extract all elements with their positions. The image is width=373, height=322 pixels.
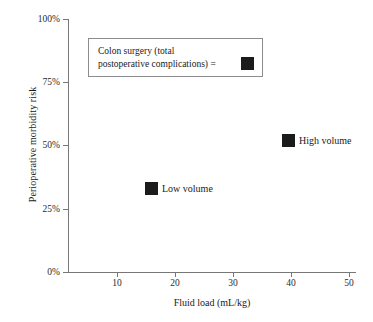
y-tick-label-75: 75% bbox=[43, 77, 60, 87]
x-axis-title: Fluid load (mL/kg) bbox=[68, 297, 356, 308]
y-tick-mark-25 bbox=[63, 209, 69, 210]
chart-container: 100% 75% 50% 25% 0% 10 20 30 40 50 Perio… bbox=[0, 0, 373, 322]
legend-box: Colon surgery (total postoperative compl… bbox=[88, 38, 263, 77]
y-tick-label-100: 100% bbox=[38, 14, 60, 24]
y-tick-label-50: 50% bbox=[43, 140, 60, 150]
data-label-low-volume: Low volume bbox=[162, 183, 213, 194]
y-tick-mark-100 bbox=[63, 19, 69, 20]
x-tick-label-30: 30 bbox=[218, 278, 248, 288]
y-tick-label-25: 25% bbox=[43, 204, 60, 214]
data-point-low-volume[interactable] bbox=[145, 182, 158, 195]
legend-text: Colon surgery (total postoperative compl… bbox=[98, 45, 243, 71]
y-tick-label-0: 0% bbox=[47, 267, 60, 277]
y-tick-mark-0 bbox=[63, 272, 69, 273]
x-tick-mark-10 bbox=[117, 272, 118, 277]
x-tick-label-40: 40 bbox=[276, 278, 306, 288]
legend-text-line2: postoperative complications) = bbox=[98, 59, 216, 69]
y-tick-mark-75 bbox=[63, 82, 69, 83]
legend-marker-square bbox=[241, 57, 254, 70]
data-label-high-volume: High volume bbox=[299, 135, 352, 146]
x-tick-label-10: 10 bbox=[102, 278, 132, 288]
data-point-high-volume[interactable] bbox=[282, 134, 295, 147]
legend-text-line1: Colon surgery (total bbox=[98, 46, 174, 56]
x-tick-mark-40 bbox=[291, 272, 292, 277]
x-axis-line bbox=[68, 272, 356, 273]
y-axis-line bbox=[68, 19, 69, 273]
x-tick-mark-20 bbox=[175, 272, 176, 277]
x-tick-label-20: 20 bbox=[160, 278, 190, 288]
y-axis-title: Perioperative morbidity risk bbox=[27, 50, 38, 240]
y-tick-mark-50 bbox=[63, 145, 69, 146]
x-tick-label-50: 50 bbox=[334, 278, 364, 288]
x-tick-mark-50 bbox=[349, 272, 350, 277]
x-tick-mark-30 bbox=[233, 272, 234, 277]
